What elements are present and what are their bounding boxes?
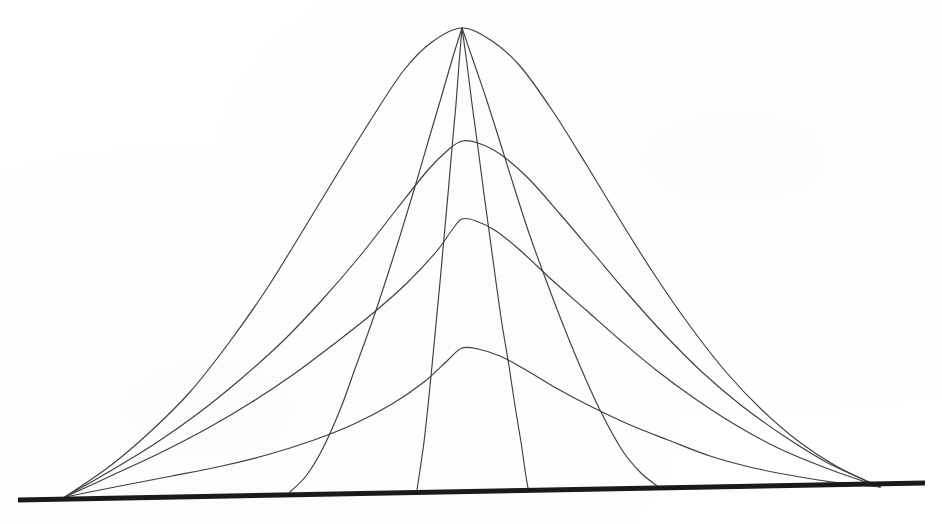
curve-family-figure xyxy=(0,0,942,524)
figure-background xyxy=(0,0,942,524)
figure-root: Family of bell-shaped curves with charac… xyxy=(0,0,942,524)
